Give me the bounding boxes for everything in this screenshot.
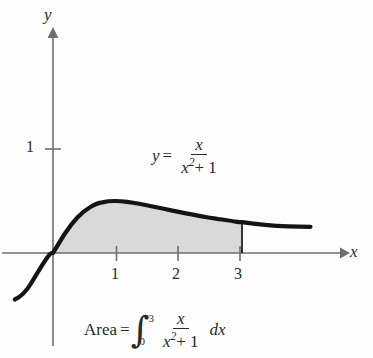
integral-limits: 3 0	[145, 313, 154, 347]
x-tick-label-2: 2	[172, 266, 180, 282]
area-word: Area	[84, 321, 117, 338]
integral-lower-limit: 0	[139, 336, 154, 347]
integrand-denominator: x2+ 1	[159, 329, 203, 350]
y-axis-label: y	[44, 6, 52, 23]
figure-container: y x 1 2 3 1 y = x x2+ 1 Area = ∫ 3 0 x	[0, 0, 373, 358]
differential-dx: dx	[210, 321, 226, 338]
equation-denominator-tail: + 1	[194, 158, 216, 177]
equation-numerator: x	[191, 136, 207, 155]
integrand-numerator: x	[173, 310, 189, 329]
area-integral-formula: Area = ∫ 3 0 x x2+ 1 dx	[84, 310, 226, 350]
shaded-area-region	[53, 201, 242, 253]
x-tick-label-1: 1	[111, 266, 119, 282]
y-axis-arrowhead	[48, 27, 59, 38]
integral-symbol-group: ∫ 3 0	[131, 313, 154, 347]
graph-canvas	[0, 0, 373, 358]
y-tick-label-1: 1	[26, 139, 34, 155]
x-axis-arrowhead	[340, 248, 350, 259]
equation-equals-sign: =	[163, 147, 173, 164]
equation-denominator: x2+ 1	[177, 155, 221, 176]
equation-lhs: y	[152, 147, 160, 164]
equation-denominator-base: x	[181, 158, 189, 177]
integrand-fraction: x x2+ 1	[159, 310, 203, 350]
area-equals-sign: =	[120, 321, 130, 338]
function-equation-label: y = x x2+ 1	[152, 136, 224, 176]
x-axis-label: x	[350, 243, 358, 260]
integral-upper-limit: 3	[148, 313, 154, 324]
x-tick-label-3: 3	[234, 266, 242, 282]
equation-fraction: x x2+ 1	[177, 136, 221, 176]
integrand-denominator-tail: + 1	[176, 332, 198, 351]
